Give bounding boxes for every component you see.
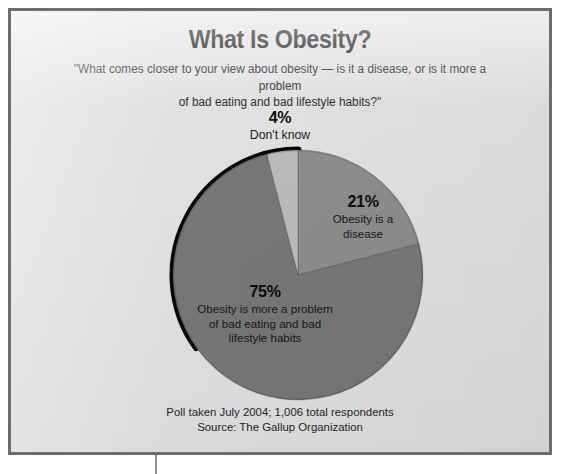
figure-footer: Poll taken July 2004; 1,006 total respon… xyxy=(11,405,549,434)
footer-source: Source: The Gallup Organization xyxy=(11,420,549,435)
dont-know-callout: 4% Don't know xyxy=(11,109,549,142)
habits-desc-line-1: Obesity is more a problem xyxy=(175,302,355,317)
disease-description: Obesity is a disease xyxy=(307,212,419,241)
pie-label-disease: 21% Obesity is a disease xyxy=(307,193,419,241)
page-title: What Is Obesity? xyxy=(30,25,530,54)
dont-know-percent: 4% xyxy=(11,109,549,127)
pie-label-habits: 75% Obesity is more a problem of bad eat… xyxy=(175,283,355,346)
figure-subtitle: "What comes closer to your view about ob… xyxy=(66,61,494,111)
habits-desc-line-3: lifestyle habits xyxy=(175,331,355,346)
frame-tail-rule xyxy=(155,455,157,474)
pie-chart xyxy=(167,144,429,406)
habits-description: Obesity is more a problem of bad eating … xyxy=(175,302,355,346)
habits-desc-line-2: of bad eating and bad xyxy=(175,317,355,332)
subtitle-line-1: "What comes closer to your view about ob… xyxy=(66,61,494,94)
figure-canvas: What Is Obesity? "What comes closer to y… xyxy=(0,0,565,474)
disease-desc-line-2: disease xyxy=(307,227,419,242)
disease-percent: 21% xyxy=(307,193,419,211)
figure-frame: What Is Obesity? "What comes closer to y… xyxy=(8,8,552,455)
figure-content: What Is Obesity? "What comes closer to y… xyxy=(11,11,549,452)
footer-poll-note: Poll taken July 2004; 1,006 total respon… xyxy=(11,405,549,420)
dont-know-label: Don't know xyxy=(11,128,549,142)
habits-percent: 75% xyxy=(175,283,355,301)
pie-chart-svg xyxy=(167,144,429,406)
disease-desc-line-1: Obesity is a xyxy=(307,212,419,227)
